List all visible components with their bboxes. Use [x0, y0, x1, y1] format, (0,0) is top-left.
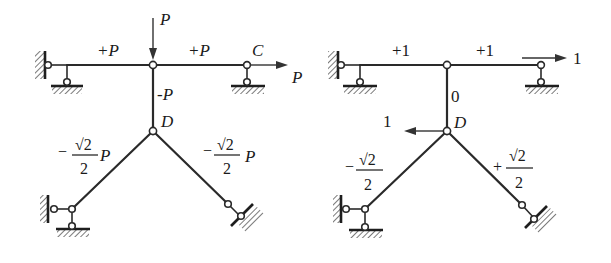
svg-text:2: 2: [364, 176, 372, 193]
left-c-support-icon: [231, 65, 265, 94]
right-bottom-left-support-icon: [333, 195, 383, 238]
right-bottom-right-support-icon: [519, 202, 558, 234]
right-truss: +1 +1 1 0 D 1 − √2 2 + √2 2: [328, 41, 582, 238]
left-load-down-arrow-icon: [149, 18, 157, 60]
left-member-vertical-label: -P: [157, 85, 173, 104]
left-top-left-support-icon: [35, 51, 83, 94]
left-load-right-label: P: [291, 68, 302, 87]
svg-text:−: −: [203, 142, 212, 159]
left-joint-d-label: D: [160, 112, 174, 131]
right-top-right-joint: [538, 62, 545, 69]
right-load-right-label: 1: [573, 49, 582, 68]
svg-text:+: +: [493, 158, 502, 175]
left-bottom-right-support-icon: [225, 201, 264, 232]
svg-text:−: −: [58, 143, 67, 160]
left-load-right-arrow-icon: [250, 61, 288, 69]
right-diag-left-force-label: − √2 2: [345, 151, 383, 193]
svg-text:2: 2: [515, 174, 523, 191]
left-joint-c-label: C: [252, 41, 264, 60]
right-member-top-right-label: +1: [476, 41, 494, 60]
right-member-top-left-label: +1: [392, 41, 410, 60]
right-d-joint: [443, 127, 450, 134]
svg-text:P: P: [244, 147, 255, 166]
svg-text:√2: √2: [509, 147, 526, 164]
svg-text:−: −: [345, 158, 354, 175]
left-load-top-label: P: [159, 10, 170, 29]
right-unit-load-right-arrow-icon: [522, 54, 567, 62]
right-load-d-label: 1: [383, 112, 392, 131]
left-top-center-joint: [149, 61, 156, 68]
svg-text:√2: √2: [217, 136, 234, 153]
right-joint-d-label: D: [453, 113, 467, 132]
right-diag-right-force-label: + √2 2: [493, 147, 533, 191]
svg-text:2: 2: [80, 160, 88, 177]
right-top-left-support-icon: [328, 51, 377, 94]
truss-diagrams: P +P +P C P -P D − √2 2 P − √2 2 P: [0, 0, 611, 263]
svg-text:√2: √2: [75, 136, 92, 153]
left-member-top-right-label: +P: [188, 41, 210, 60]
left-truss: P +P +P C P -P D − √2 2 P − √2 2 P: [35, 10, 302, 237]
right-member-vertical-label: 0: [451, 87, 460, 106]
svg-text:√2: √2: [359, 151, 376, 168]
left-bottom-left-support-icon: [40, 195, 90, 237]
left-d-joint: [149, 127, 156, 134]
left-member-top-left-label: +P: [97, 41, 119, 60]
right-top-right-support-icon: [525, 65, 559, 94]
left-c-joint: [244, 62, 251, 69]
svg-text:2: 2: [223, 160, 231, 177]
left-diag-left-force-label: − √2 2 P: [58, 136, 110, 177]
right-unit-load-left-arrow-icon: [404, 127, 443, 135]
svg-text:P: P: [99, 146, 110, 165]
right-top-center-joint: [443, 61, 450, 68]
left-diag-right-force-label: − √2 2 P: [203, 136, 255, 177]
